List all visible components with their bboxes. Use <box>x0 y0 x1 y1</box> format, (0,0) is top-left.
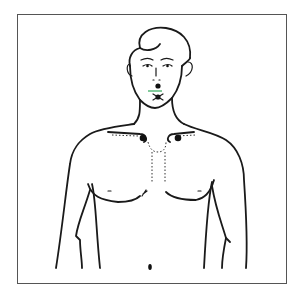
clavicles <box>108 132 196 182</box>
left-clavicle-marker <box>140 135 147 142</box>
anatomical-figure <box>0 0 301 300</box>
chest <box>88 180 214 202</box>
torso-outline <box>56 124 247 268</box>
upper-lip-marker <box>155 83 160 88</box>
navel <box>148 264 152 270</box>
right-clavicle-marker <box>175 135 182 142</box>
